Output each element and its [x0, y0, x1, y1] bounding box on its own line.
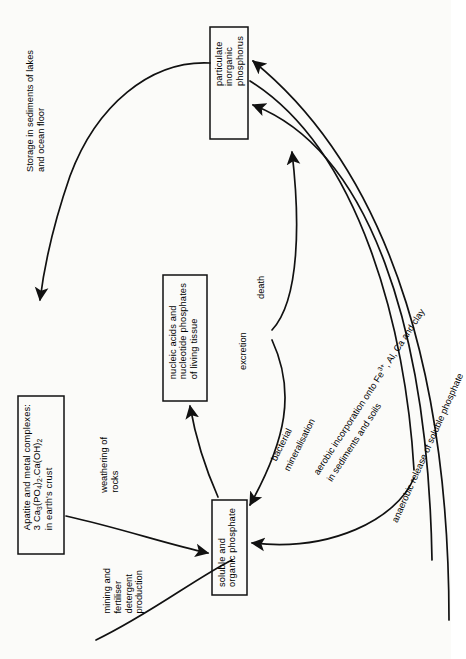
storage-line-1: Storage in sediments of lakes	[26, 50, 35, 172]
label-storage: Storage in sediments of lakes and ocean …	[26, 50, 46, 172]
box-apatite-label: Apatite and metal complexes: 3 Ca3(PO4)2…	[23, 404, 54, 530]
mining-line-1: mining and	[103, 568, 112, 613]
particulate-line-2: inorganic	[225, 36, 234, 86]
arrow-aerobic-to-particulate	[253, 61, 449, 620]
apatite-line-1: Apatite and metal complexes:	[23, 404, 32, 530]
apatite-line-3: in earth's crust	[45, 404, 54, 530]
arrow-particulate-to-storage	[40, 63, 210, 300]
weathering-line-2: rocks	[111, 437, 120, 493]
nucleic-line-1: nucleic acids and	[169, 283, 178, 379]
particulate-line-1: particulate	[215, 36, 224, 86]
arrow-soluble-to-nucleic	[190, 406, 218, 497]
arrow-weathering	[66, 516, 208, 553]
apatite-formula: 3 Ca3(PO4)2.Ca(OH)2	[33, 404, 44, 530]
mining-line-4: production	[135, 568, 144, 613]
label-mining: mining and fertiliser detergent producti…	[103, 568, 145, 613]
box-particulate-label: particulate inorganic phosphorus	[215, 36, 245, 86]
nucleic-line-3: of living tissue	[190, 283, 199, 379]
mining-line-3: detergent	[125, 568, 134, 613]
arrow-anaerobic-release	[252, 478, 414, 545]
label-death: death	[256, 276, 267, 299]
weathering-line-1: weathering of	[100, 437, 109, 493]
label-weathering: weathering of rocks	[100, 437, 120, 493]
mining-line-2: fertiliser	[114, 568, 123, 613]
storage-line-2: and ocean floor	[37, 50, 46, 172]
label-excretion: excretion	[238, 332, 249, 370]
nucleic-line-2: nucleotide phosphates	[179, 283, 188, 379]
soluble-line-1: soluble and	[218, 508, 227, 587]
arrow-bacterial-mineralisation	[250, 340, 285, 505]
particulate-line-3: phosphorus	[236, 36, 245, 86]
soluble-line-2: organic phosphate	[228, 508, 237, 587]
box-soluble-label: soluble and organic phosphate	[218, 508, 238, 587]
box-nucleic-label: nucleic acids and nucleotide phosphates …	[169, 283, 199, 379]
arrow-death	[272, 152, 297, 330]
